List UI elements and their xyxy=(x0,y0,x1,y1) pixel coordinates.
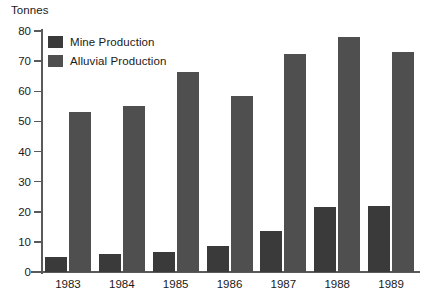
y-axis-tick-label: 0 xyxy=(5,266,31,278)
x-axis-tick-label: 1988 xyxy=(324,278,350,290)
legend-swatch-icon xyxy=(48,55,63,67)
bar xyxy=(338,37,360,272)
bar xyxy=(177,72,199,272)
bar xyxy=(99,254,121,272)
x-axis-tick-label: 1983 xyxy=(55,278,81,290)
y-axis-tick-label: 40 xyxy=(5,146,31,158)
chart-legend: Mine ProductionAlluvial Production xyxy=(48,33,167,71)
y-axis-tick-label: 70 xyxy=(5,55,31,67)
bar xyxy=(207,246,229,272)
y-axis-tick-label: 30 xyxy=(5,176,31,188)
bar xyxy=(123,106,145,272)
legend-item: Mine Production xyxy=(48,33,167,50)
y-axis-tick xyxy=(34,60,41,62)
bar xyxy=(284,54,306,272)
legend-item-label: Alluvial Production xyxy=(70,55,167,67)
x-axis-tick-label: 1985 xyxy=(163,278,189,290)
y-axis-title: Tonnes xyxy=(11,4,49,16)
x-axis-tick-label: 1987 xyxy=(271,278,297,290)
bar xyxy=(368,206,390,272)
bar xyxy=(392,52,414,272)
x-axis-tick-label: 1984 xyxy=(109,278,135,290)
y-axis-tick-label: 60 xyxy=(5,85,31,97)
x-axis-tick-label: 1989 xyxy=(378,278,404,290)
y-axis-tick xyxy=(34,121,41,123)
y-axis-tick xyxy=(34,241,41,243)
y-axis-tick-label: 50 xyxy=(5,115,31,127)
legend-item: Alluvial Production xyxy=(48,52,167,69)
y-axis-tick-label: 80 xyxy=(5,25,31,37)
x-axis-tick-label: 1986 xyxy=(217,278,243,290)
y-axis-tick xyxy=(34,91,41,93)
y-axis-tick-label: 20 xyxy=(5,206,31,218)
y-axis-tick xyxy=(34,30,41,32)
bar xyxy=(231,96,253,272)
bar xyxy=(153,252,175,272)
y-axis-tick-label: 10 xyxy=(5,236,31,248)
bar xyxy=(69,112,91,272)
y-axis-tick xyxy=(34,211,41,213)
bar xyxy=(314,207,336,272)
legend-swatch-icon xyxy=(48,36,63,48)
y-axis-tick xyxy=(34,181,41,183)
bar-chart: Tonnes 01020304050607080 198319841985198… xyxy=(0,0,428,307)
bar xyxy=(45,257,67,272)
bar xyxy=(260,231,282,272)
legend-item-label: Mine Production xyxy=(70,36,155,48)
y-axis-tick xyxy=(34,151,41,153)
